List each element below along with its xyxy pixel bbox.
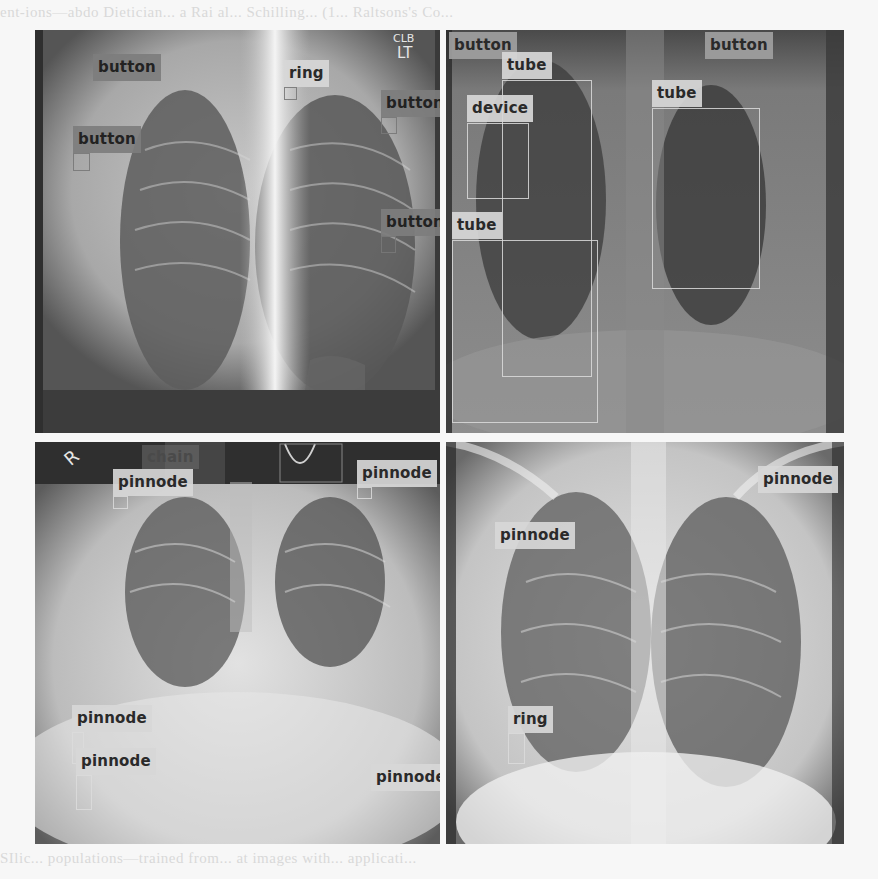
- detection-box-pinnode: [76, 775, 92, 810]
- detection-box-device: [467, 123, 529, 199]
- detection-label-pinnode: pinnode: [758, 466, 838, 493]
- detection-box-ring: [508, 733, 525, 764]
- chest-xray-image: [35, 30, 440, 433]
- detection-box-tube: [452, 240, 598, 423]
- detection-label-pinnode: pinnode: [76, 748, 156, 775]
- xray-panel-top-left: CLB LT button ring button button button: [35, 30, 440, 433]
- marker-lt: LT: [397, 44, 412, 62]
- detection-label-pinnode: pinnode: [495, 522, 575, 549]
- detection-label-button: button: [381, 90, 440, 117]
- detection-box-button: [381, 236, 396, 253]
- detection-label-button: button: [705, 32, 773, 59]
- detection-label-pinnode: pinnode: [113, 469, 193, 496]
- detection-box-tube: [652, 108, 760, 289]
- detection-box-button: [381, 117, 397, 134]
- xray-panel-bottom-right: pinnode pinnode ring: [446, 442, 844, 844]
- background-text-top: ent-ions—abdo Dietician... a Rai al... S…: [0, 4, 878, 21]
- detection-label-ring: ring: [284, 60, 329, 87]
- detection-box-pinnode: [357, 487, 372, 499]
- detection-label-pinnode: pinnode: [72, 705, 152, 732]
- detection-box-ring: [284, 87, 297, 100]
- detection-label-button: button: [73, 126, 141, 153]
- detection-box-pinnode: [113, 496, 128, 509]
- detection-label-tube: tube: [452, 212, 502, 239]
- detection-box-button: [73, 153, 90, 171]
- detection-label-ring: ring: [508, 706, 553, 733]
- detection-label-tube: tube: [652, 80, 702, 107]
- detection-label-button: button: [93, 54, 161, 81]
- detection-label-button: button: [381, 209, 440, 236]
- detection-label-pinnode: pinnode: [357, 460, 437, 487]
- xray-panel-bottom-left: R chain pinnode pinnode pinnode pinnode …: [35, 442, 440, 844]
- detection-label-tube: tube: [502, 52, 552, 79]
- xray-panel-top-right: button tube device tube tube button: [446, 30, 844, 433]
- detection-label-device: device: [467, 95, 533, 122]
- detection-label-pinnode: pinnode: [371, 764, 440, 791]
- background-text-bottom: SIlic... populations—trained from... at …: [0, 850, 878, 867]
- chest-xray-image: [446, 442, 844, 844]
- detection-label-chain: chain: [142, 445, 199, 469]
